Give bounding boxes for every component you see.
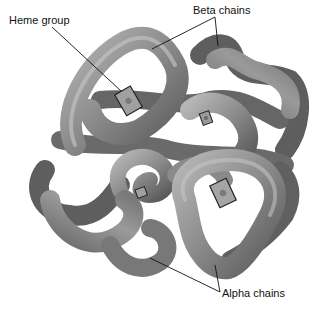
beta-chains-label: Beta chains	[193, 4, 250, 17]
heme-group-label: Heme group	[9, 14, 70, 27]
hemoglobin-diagram: Heme group Beta chains Alpha chains	[0, 0, 321, 312]
hemoglobin-illustration	[0, 0, 321, 312]
heme-group-upper-right	[199, 111, 213, 126]
alpha-chains-label: Alpha chains	[222, 287, 285, 300]
